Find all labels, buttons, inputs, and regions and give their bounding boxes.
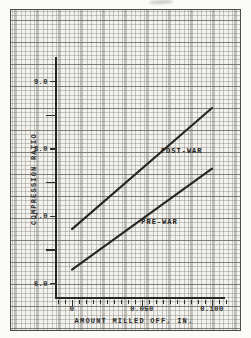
y-tick [50,148,56,149]
y-axis-title: COMPRESSION RATIO [30,131,38,227]
x-minor-tick [177,300,178,304]
x-minor-tick [86,300,87,304]
y-tick [50,216,56,217]
x-tick-label: 0 [55,305,89,313]
y-minor-tick [46,249,56,250]
x-minor-tick [58,300,59,304]
x-minor-tick [170,300,171,304]
x-axis-title: AMOUNT MILLED OFF, IN. [72,317,196,325]
x-minor-tick [198,300,199,304]
scan-artifact [149,0,173,5]
x-minor-tick [65,300,66,304]
figure-page: 9.08.07.06.0 00.0500.100 POST-WAR PRE-WA… [0,0,251,338]
post-war-label: POST-WAR [161,147,203,155]
y-minor-tick [46,182,56,183]
x-minor-tick [226,300,227,304]
x-minor-tick [121,300,122,304]
x-tick-label: 0.100 [195,305,229,313]
x-minor-tick [93,300,94,304]
y-minor-tick [46,115,56,116]
pre-war-label: PRE-WAR [141,218,177,226]
x-minor-tick [184,300,185,304]
x-tick-label: 0.050 [125,305,159,313]
y-tick-label: 9.0 [26,78,48,86]
y-axis-line [55,57,57,298]
x-axis-line [55,297,225,299]
x-minor-tick [100,300,101,304]
y-tick [50,283,56,284]
x-minor-tick [156,300,157,304]
x-minor-tick [163,300,164,304]
x-minor-tick [191,300,192,304]
x-minor-tick [149,300,150,304]
x-minor-tick [135,300,136,304]
x-minor-tick [79,300,80,304]
x-minor-tick [128,300,129,304]
x-minor-tick [107,300,108,304]
x-minor-tick [205,300,206,304]
x-minor-tick [219,300,220,304]
y-tick [50,81,56,82]
y-tick-label: 6.0 [26,280,48,288]
x-minor-tick [114,300,115,304]
